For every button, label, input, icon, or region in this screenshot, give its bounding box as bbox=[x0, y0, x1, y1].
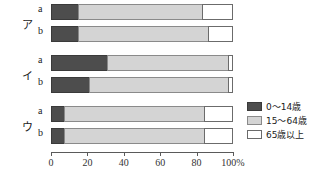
bar-segment[interactable] bbox=[64, 106, 205, 122]
x-tick bbox=[197, 152, 198, 156]
x-tick-label: 60 bbox=[155, 157, 165, 168]
group-label-2: ウ bbox=[22, 118, 33, 134]
x-tick-label: 80 bbox=[192, 157, 202, 168]
bar-segment[interactable] bbox=[51, 106, 65, 122]
row-label-1-b: b bbox=[38, 76, 43, 87]
group-label-1: イ bbox=[22, 67, 33, 83]
x-tick bbox=[160, 152, 161, 156]
bar-segment[interactable] bbox=[204, 106, 233, 122]
legend-item[interactable]: 0〜14歳 bbox=[247, 100, 313, 113]
bar-segment[interactable] bbox=[204, 128, 233, 144]
x-tick-label: 100% bbox=[221, 157, 244, 168]
legend-label: 0〜14歳 bbox=[266, 100, 301, 113]
stacked-bar[interactable] bbox=[51, 4, 233, 20]
legend: 0〜14歳15〜64歳65歳以上 bbox=[247, 100, 313, 142]
stacked-bar[interactable] bbox=[51, 128, 233, 144]
bar-segment[interactable] bbox=[51, 4, 79, 20]
stacked-bar-chart: ア イ ウ a b a b a b 020406080100% 0〜14歳15〜… bbox=[0, 0, 318, 173]
legend-item[interactable]: 65歳以上 bbox=[247, 128, 313, 141]
bar-segment[interactable] bbox=[228, 55, 233, 71]
stacked-bar[interactable] bbox=[51, 55, 233, 71]
legend-label: 15〜64歳 bbox=[266, 114, 307, 127]
x-tick-label: 40 bbox=[119, 157, 129, 168]
legend-label: 65歳以上 bbox=[266, 128, 304, 141]
stacked-bar[interactable] bbox=[51, 26, 233, 42]
x-tick bbox=[124, 152, 125, 156]
bar-segment[interactable] bbox=[51, 55, 108, 71]
bar-segment[interactable] bbox=[208, 26, 233, 42]
row-label-2-a: a bbox=[38, 105, 42, 116]
bar-segment[interactable] bbox=[107, 55, 228, 71]
bar-segment[interactable] bbox=[228, 77, 233, 93]
bar-segment[interactable] bbox=[202, 4, 233, 20]
stacked-bar[interactable] bbox=[51, 106, 233, 122]
x-axis-line bbox=[51, 152, 234, 153]
x-tick bbox=[51, 152, 52, 156]
bar-segment[interactable] bbox=[78, 26, 208, 42]
legend-swatch bbox=[247, 116, 262, 125]
x-tick-label: 20 bbox=[82, 157, 92, 168]
bar-segment[interactable] bbox=[78, 4, 203, 20]
bar-segment[interactable] bbox=[89, 77, 228, 93]
row-label-0-a: a bbox=[38, 3, 42, 14]
plot-area bbox=[51, 0, 233, 152]
legend-swatch bbox=[247, 102, 262, 111]
bar-segment[interactable] bbox=[51, 128, 65, 144]
legend-swatch bbox=[247, 130, 262, 139]
x-tick bbox=[87, 152, 88, 156]
legend-item[interactable]: 15〜64歳 bbox=[247, 114, 313, 127]
x-tick bbox=[233, 152, 234, 156]
group-label-0: ア bbox=[22, 16, 33, 32]
bar-segment[interactable] bbox=[64, 128, 205, 144]
stacked-bar[interactable] bbox=[51, 77, 233, 93]
row-label-0-b: b bbox=[38, 25, 43, 36]
x-tick-label: 0 bbox=[49, 157, 54, 168]
bar-segment[interactable] bbox=[51, 77, 90, 93]
bar-segment[interactable] bbox=[51, 26, 79, 42]
row-label-1-a: a bbox=[38, 54, 42, 65]
row-label-2-b: b bbox=[38, 127, 43, 138]
